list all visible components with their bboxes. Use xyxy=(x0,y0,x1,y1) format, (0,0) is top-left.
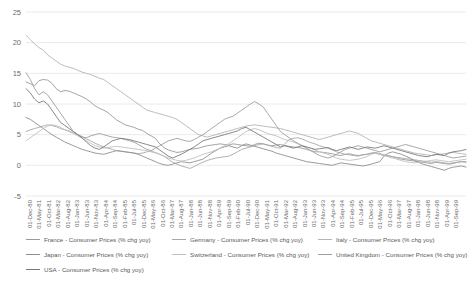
x-axis-tick-label: 01-Aug-82 xyxy=(65,199,71,228)
x-axis-tick-label: 01-Sep-89 xyxy=(226,199,232,228)
legend-swatch xyxy=(26,239,40,240)
legend-item[interactable]: Germany - Consumer Prices (% chg yoy) xyxy=(172,232,318,247)
x-axis-tick-label: 01-Dec-90 xyxy=(254,199,260,228)
x-axis-tick-label: 01-Jun-88 xyxy=(197,199,203,227)
x-axis-tick-label: 01-Feb-95 xyxy=(349,199,355,227)
series-line xyxy=(26,73,466,158)
x-axis-tick-label: 01-Nov-98 xyxy=(434,199,440,228)
x-axis-tick-label: 01-Jun-98 xyxy=(425,199,431,227)
legend-label: USA - Consumer Prices (% chg yoy) xyxy=(44,266,144,273)
legend-label: Switzerland - Consumer Prices (% chg yoy… xyxy=(190,251,309,258)
y-axis-tick-label: 0 xyxy=(17,161,21,170)
legend-item[interactable]: Italy - Consumer Prices (% chg yoy) xyxy=(318,232,464,247)
chart-container: -5051015202501-Dec-8001-May-8101-Oct-810… xyxy=(0,0,474,292)
x-axis-tick-label: 01-May-86 xyxy=(150,199,156,228)
x-axis-tick-label: 01-Aug-87 xyxy=(178,199,184,228)
legend-item[interactable]: France - Consumer Prices (% chg yoy) xyxy=(26,232,172,247)
legend-item[interactable]: USA - Consumer Prices (% chg yoy) xyxy=(26,262,172,277)
x-axis-tick-label: 01-Mar-97 xyxy=(396,199,402,227)
x-axis-tick-label: 01-Jun-83 xyxy=(84,199,90,227)
x-axis-tick-label: 01-Sep-84 xyxy=(112,199,118,228)
legend-label: Germany - Consumer Prices (% chg yoy) xyxy=(190,236,303,243)
x-axis-tick-label: 01-Sep-94 xyxy=(339,199,345,228)
series-line xyxy=(26,79,466,164)
x-axis-tick-label: 01-Jun-93 xyxy=(311,199,317,227)
legend-item[interactable]: United Kingdom - Consumer Prices (% chg … xyxy=(318,247,464,262)
x-axis-tick-label: 01-Dec-80 xyxy=(27,199,33,228)
legend-label: Japan - Consumer Prices (% chg yoy) xyxy=(44,251,148,258)
legend-swatch xyxy=(26,269,40,270)
x-axis-tick-label: 01-Nov-88 xyxy=(207,199,213,228)
x-axis-tick-label: 01-Jul-95 xyxy=(358,199,364,225)
x-axis-tick-label: 01-Feb-85 xyxy=(122,199,128,227)
x-axis-tick-label: 01-Jul-90 xyxy=(245,199,251,225)
x-axis-tick-label: 01-May-91 xyxy=(264,199,270,228)
series-line xyxy=(26,89,466,158)
y-axis-tick-label: 15 xyxy=(13,69,21,78)
x-axis-tick-label: 01-Mar-82 xyxy=(55,199,61,227)
x-axis-tick-label: 01-Apr-99 xyxy=(444,199,450,226)
legend-swatch xyxy=(172,254,186,255)
legend-swatch xyxy=(318,239,332,240)
legend-item[interactable]: Switzerland - Consumer Prices (% chg yoy… xyxy=(172,247,318,262)
chart-legend: France - Consumer Prices (% chg yoy)Germ… xyxy=(26,232,466,277)
x-axis-tick-label: 01-Oct-96 xyxy=(387,199,393,226)
x-axis-tick-label: 01-Sep-99 xyxy=(453,199,459,228)
x-axis-tick-label: 01-Dec-85 xyxy=(141,199,147,228)
x-axis-tick-label: 01-Apr-89 xyxy=(216,199,222,226)
legend-label: Italy - Consumer Prices (% chg yoy) xyxy=(336,236,435,243)
y-axis-tick-label: 25 xyxy=(13,8,21,17)
x-axis-tick-label: 01-Jan-88 xyxy=(188,199,194,227)
x-axis-tick-label: 01-Feb-90 xyxy=(235,199,241,227)
series-line xyxy=(26,35,466,155)
y-axis-tick-label: -5 xyxy=(14,192,21,201)
x-axis-tick-label: 01-Dec-95 xyxy=(368,199,374,228)
legend-swatch xyxy=(318,254,332,255)
x-axis-tick-label: 01-Apr-94 xyxy=(330,199,336,226)
x-axis-tick-label: 01-Oct-91 xyxy=(273,199,279,226)
x-axis-tick-label: 01-Aug-92 xyxy=(292,199,298,228)
x-axis-tick-label: 01-Jan-93 xyxy=(302,199,308,227)
y-axis-tick-label: 5 xyxy=(17,130,21,139)
x-axis-tick-label: 01-Mar-87 xyxy=(169,199,175,227)
legend-label: United Kingdom - Consumer Prices (% chg … xyxy=(336,251,467,258)
x-axis-tick-label: 01-Jan-83 xyxy=(74,199,80,227)
x-axis-tick-label: 01-Nov-83 xyxy=(93,199,99,228)
y-axis-tick-label: 20 xyxy=(13,38,21,47)
x-axis-tick-label: 01-Aug-97 xyxy=(406,199,412,228)
x-axis-tick-label: 01-Jan-98 xyxy=(415,199,421,227)
x-axis-tick-label: 01-May-81 xyxy=(36,199,42,228)
x-axis-tick-label: 01-Apr-84 xyxy=(103,199,109,226)
legend-swatch xyxy=(172,239,186,240)
legend-swatch xyxy=(26,254,40,255)
x-axis-tick-label: 01-Mar-92 xyxy=(283,199,289,227)
x-axis-tick-label: 01-Oct-81 xyxy=(46,199,52,226)
y-axis-tick-label: 10 xyxy=(13,100,21,109)
x-axis-tick-label: 01-Nov-93 xyxy=(320,199,326,228)
x-axis-tick-label: 01-May-96 xyxy=(377,199,383,228)
x-axis-tick-label: 01-Jul-85 xyxy=(131,199,137,225)
legend-item[interactable]: Japan - Consumer Prices (% chg yoy) xyxy=(26,247,172,262)
legend-label: France - Consumer Prices (% chg yoy) xyxy=(44,236,151,243)
x-axis-tick-label: 01-Oct-86 xyxy=(160,199,166,226)
